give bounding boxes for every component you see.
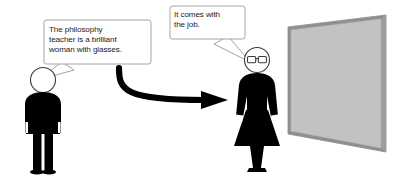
female-left-cuff — [235, 115, 243, 123]
arrow-head — [201, 91, 228, 109]
female-waist-left — [247, 96, 250, 110]
male-right-arm-gap — [58, 122, 61, 133]
male-figure — [25, 68, 61, 175]
female-feet — [247, 168, 267, 172]
male-leg-gap — [42, 134, 45, 172]
female-right-cuff — [271, 115, 279, 123]
board-surface — [291, 19, 381, 148]
bubble-two-text: It comes with the job. — [174, 10, 242, 30]
female-legs — [250, 146, 264, 168]
comic-scene: The philosophy teacher is a brilliant wo… — [0, 0, 395, 188]
arrow-shaft — [119, 68, 205, 100]
board-right-edge — [381, 15, 386, 152]
male-head — [31, 68, 56, 93]
glasses-right-lens — [258, 57, 266, 63]
bubble-one-text: The philosophy teacher is a brilliant wo… — [49, 25, 149, 55]
male-left-arm-gap — [25, 122, 28, 133]
female-figure — [234, 48, 280, 173]
female-waist-right — [264, 96, 267, 110]
male-right-foot — [42, 169, 56, 174]
curved-arrow — [119, 68, 228, 109]
male-left-foot — [30, 169, 44, 174]
presentation-board — [288, 15, 386, 152]
glasses-left-lens — [248, 57, 256, 63]
